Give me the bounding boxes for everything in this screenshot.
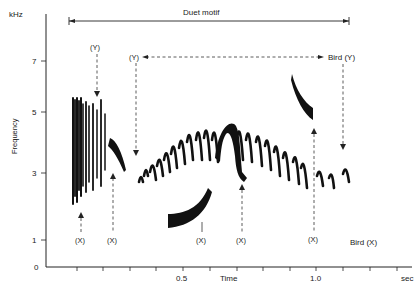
y-unit-label: kHz <box>9 10 23 19</box>
bird-x-low-note <box>168 188 212 228</box>
arrow-down-icon <box>94 91 100 97</box>
bird-x-high-note <box>291 74 313 120</box>
duet-motif-label: Duet motif <box>183 8 220 17</box>
bird-x-broadband-notes <box>73 98 105 204</box>
y-axis-label: Frequency <box>10 118 19 154</box>
x-axis-label: Time <box>220 274 238 283</box>
spectrogram-figure: kHz 7 5 3 1 0 Frequency 0.5 Time 1.0 sec… <box>0 0 417 292</box>
x-marker-1: (X) <box>75 236 86 245</box>
arrow-down-icon <box>340 144 346 150</box>
bird-y-horizontal-arrow <box>142 55 324 59</box>
arrow-up-icon <box>239 184 245 190</box>
y-marker-2: (Y) <box>129 53 140 62</box>
bird-x-label: Bird (X) <box>350 238 377 247</box>
arrow-up-icon <box>110 173 116 179</box>
x-marker-4: (X) <box>236 236 247 245</box>
x-marker-2: (X) <box>107 236 118 245</box>
arrow-up-icon <box>311 128 317 134</box>
bird-y-note-hook-1 <box>108 138 126 172</box>
arrow-right-icon <box>343 19 349 23</box>
x-marker-5: (X) <box>308 235 319 244</box>
arrow-down-icon <box>133 150 139 156</box>
y-tick-0: 0 <box>34 263 39 272</box>
x-tick-0-5: 0.5 <box>176 274 188 283</box>
arrow-left-icon <box>69 19 75 23</box>
arrow-right-icon <box>318 55 324 59</box>
x-tick-1-0: 1.0 <box>310 274 322 283</box>
y-tick-1: 1 <box>32 236 37 245</box>
bird-y-label: Bird (Y) <box>328 53 355 62</box>
duet-motif-bracket <box>69 17 349 25</box>
y-marker-1: (Y) <box>90 43 101 52</box>
x-marker-3: (X) <box>196 236 207 245</box>
arrow-up-icon <box>78 212 84 218</box>
y-tick-3: 3 <box>32 169 37 178</box>
y-tick-5: 5 <box>32 108 37 117</box>
x-unit-label: sec <box>401 274 413 283</box>
arrow-left-icon <box>142 55 148 59</box>
y-tick-7: 7 <box>32 57 37 66</box>
